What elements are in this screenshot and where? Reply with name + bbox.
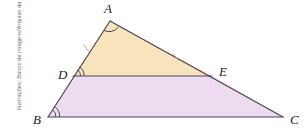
vertex-label-b: B [33, 112, 41, 127]
geometry-figure: A D E B C Ilustrações: Banco de imagens/… [0, 0, 305, 131]
lower-trapezoid-region [48, 76, 283, 117]
upper-triangle-region [73, 21, 212, 76]
vertex-label-d: D [57, 67, 68, 82]
vertex-label-c: C [290, 112, 299, 127]
vertex-label-a: A [103, 1, 112, 16]
vertex-label-e: E [218, 64, 227, 79]
tick-mark-ad-icon [84, 45, 90, 52]
geometry-canvas: A D E B C [0, 0, 305, 131]
